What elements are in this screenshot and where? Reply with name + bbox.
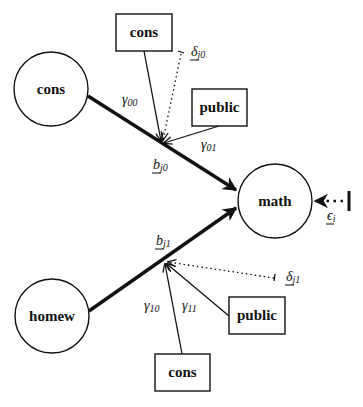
svg-text:δj1: δj1 xyxy=(286,269,300,285)
gamma11-label: γ11 xyxy=(182,298,197,314)
node-public-top-box: public xyxy=(192,89,247,126)
multilevel-path-diagram: cons homew math cons public public cons … xyxy=(0,0,363,407)
delta-j1-tick xyxy=(274,274,275,281)
svg-text:ϵi: ϵi xyxy=(327,208,336,224)
svg-text:bj1: bj1 xyxy=(156,233,171,249)
node-label: public xyxy=(199,99,239,115)
delta-j0-tick xyxy=(178,51,184,53)
node-math-circle: math xyxy=(238,164,312,238)
edge-public-top-to-bj0 xyxy=(164,126,219,143)
delta-j0-label: δj0 xyxy=(190,44,205,60)
node-cons-top-box: cons xyxy=(116,14,172,51)
node-cons-circle: cons xyxy=(14,52,88,126)
node-label: cons xyxy=(130,24,159,40)
gamma00-label: γ00 xyxy=(122,92,138,108)
epsilon-i-label: ϵi xyxy=(326,208,336,224)
gamma01-label: γ01 xyxy=(201,137,217,153)
node-label: cons xyxy=(168,364,197,380)
b-j1-label: bj1 xyxy=(155,233,171,249)
edge-delta-j1-to-bj1 xyxy=(168,262,274,278)
edge-cons-bottom-to-bj1 xyxy=(165,264,182,354)
edge-public-bottom-to-bj1 xyxy=(167,264,229,316)
svg-text:bj0: bj0 xyxy=(153,157,168,173)
edge-cons-top-to-bj0 xyxy=(144,51,161,141)
edge-homew-to-math xyxy=(89,208,236,311)
svg-text:δj0: δj0 xyxy=(191,44,205,60)
node-label: public xyxy=(237,307,277,323)
gamma10-label: γ10 xyxy=(144,298,160,314)
node-label: cons xyxy=(37,81,66,97)
node-homew-circle: homew xyxy=(15,279,89,353)
node-public-bottom-box: public xyxy=(229,297,285,334)
node-label: homew xyxy=(29,308,75,324)
delta-j1-label: δj1 xyxy=(285,269,300,285)
edge-delta-j0-to-bj0 xyxy=(163,54,181,140)
node-label: math xyxy=(258,193,292,209)
node-cons-bottom-box: cons xyxy=(155,354,210,391)
b-j0-label: bj0 xyxy=(152,157,168,173)
